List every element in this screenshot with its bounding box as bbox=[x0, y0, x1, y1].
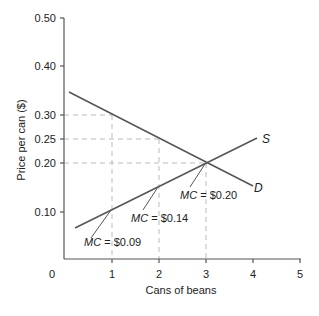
chart: 0.50 0.40 0.30 0.25 0.20 0.10 0 1 2 3 4 … bbox=[0, 0, 319, 316]
mc2-annotation: MC = $0.14 bbox=[131, 212, 188, 224]
y-tick-label-025: 0.25 bbox=[35, 133, 56, 145]
supply-label: S bbox=[262, 132, 270, 146]
mc1-prefix: MC bbox=[84, 236, 101, 248]
mc3-value: = $0.20 bbox=[197, 189, 237, 201]
x-tick-label-4: 4 bbox=[250, 268, 256, 280]
y-tick-label-020: 0.20 bbox=[35, 157, 56, 169]
y-tick-label-010: 0.10 bbox=[35, 206, 56, 218]
y-tick-label-040: 0.40 bbox=[35, 60, 56, 72]
y-tick-label-050: 0.50 bbox=[35, 12, 56, 24]
annotation-leaders bbox=[91, 164, 205, 238]
mc3-prefix: MC bbox=[180, 189, 197, 201]
y-axis-title: Price per can ($) bbox=[15, 99, 27, 180]
origin-label: 0 bbox=[49, 268, 55, 280]
mc1-annotation: MC = $0.09 bbox=[84, 236, 141, 248]
curves bbox=[69, 92, 257, 228]
x-tick-label-2: 2 bbox=[156, 268, 162, 280]
demand-curve bbox=[69, 92, 253, 186]
mc2-value: = $0.14 bbox=[148, 212, 188, 224]
mc2-prefix: MC bbox=[131, 212, 148, 224]
x-tick-label-1: 1 bbox=[109, 268, 115, 280]
mc3-annotation: MC = $0.20 bbox=[180, 189, 237, 201]
x-tick-label-3: 3 bbox=[203, 268, 209, 280]
mc1-value: = $0.09 bbox=[101, 236, 141, 248]
mc1-leader bbox=[91, 210, 111, 238]
x-tick-label-5: 5 bbox=[297, 268, 303, 280]
y-tick-label-030: 0.30 bbox=[35, 109, 56, 121]
x-axis-title: Cans of beans bbox=[146, 284, 217, 296]
demand-label: D bbox=[254, 181, 263, 195]
